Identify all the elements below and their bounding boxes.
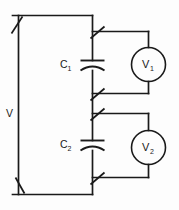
source-voltage-label: V bbox=[6, 107, 13, 119]
source-rail bbox=[12, 16, 93, 195]
capacitor-c2 bbox=[81, 141, 105, 151]
capacitor-c1 bbox=[81, 61, 105, 71]
voltmeter-2-loop bbox=[91, 109, 166, 185]
capacitor-1-subscript: 1 bbox=[68, 65, 72, 72]
voltage-arrow-bottom-icon bbox=[16, 178, 25, 194]
voltmeter-2-label: V bbox=[142, 141, 150, 153]
voltmeter-1-loop bbox=[91, 27, 166, 101]
voltmeter-2-subscript: 2 bbox=[150, 148, 154, 155]
voltmeter-1-subscript: 1 bbox=[150, 65, 154, 72]
voltage-arrow-top-icon bbox=[12, 17, 23, 34]
circuit-diagram: V C 1 C 2 V 1 V 2 bbox=[0, 0, 179, 210]
capacitor-2-subscript: 2 bbox=[68, 145, 72, 152]
voltmeter-1-label: V bbox=[142, 58, 150, 70]
